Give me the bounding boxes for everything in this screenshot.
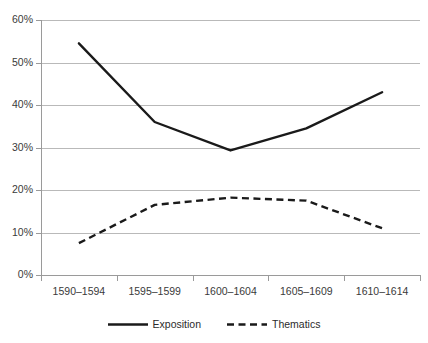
- x-axis-tick: [117, 276, 118, 281]
- y-axis-tick-label: 0%: [0, 269, 33, 280]
- legend-label-exposition: Exposition: [153, 318, 201, 330]
- y-axis-tick: [36, 20, 41, 21]
- legend-label-thematics: Thematics: [272, 318, 320, 330]
- legend-item-thematics: Thematics: [227, 318, 320, 330]
- x-axis-tick: [344, 276, 345, 281]
- line-chart: 0%10%20%30%40%50%60% 1590–15941595–15991…: [0, 0, 428, 343]
- y-axis-tick: [36, 148, 41, 149]
- x-axis-tick: [41, 276, 42, 281]
- y-axis-tick-label: 10%: [0, 227, 33, 238]
- legend-item-exposition: Exposition: [108, 318, 201, 330]
- x-axis-tick-label: 1605–1609: [268, 283, 344, 301]
- x-axis-labels: 1590–15941595–15991600–16041605–16091610…: [41, 283, 420, 301]
- y-axis-tick-label: 40%: [0, 99, 33, 110]
- x-axis-tick-label: 1600–1604: [193, 283, 269, 301]
- x-axis-tick: [420, 276, 421, 281]
- y-axis-tick-label: 50%: [0, 57, 33, 68]
- y-axis-tick: [36, 190, 41, 191]
- y-axis-tick-label: 20%: [0, 184, 33, 195]
- y-axis-tick-label: 60%: [0, 14, 33, 25]
- legend-swatch-dashed-icon: [227, 319, 267, 330]
- y-axis-tick: [36, 233, 41, 234]
- y-axis-tick: [36, 63, 41, 64]
- x-axis-tick: [268, 276, 269, 281]
- y-axis-tick-label: 30%: [0, 142, 33, 153]
- x-axis-tick-label: 1610–1614: [344, 283, 420, 301]
- legend-swatch-solid-icon: [108, 319, 148, 330]
- x-axis-tick: [193, 276, 194, 281]
- legend: Exposition Thematics: [0, 318, 428, 330]
- y-axis-tick: [36, 105, 41, 106]
- x-axis-tick-label: 1590–1594: [41, 283, 117, 301]
- x-axis-tick-label: 1595–1599: [117, 283, 193, 301]
